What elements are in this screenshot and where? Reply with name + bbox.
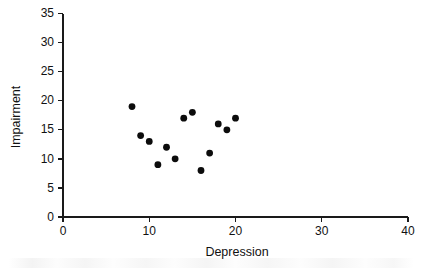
data-point bbox=[129, 103, 136, 110]
scatter-plot-svg: 05101520253035 010203040 Depression Impa… bbox=[0, 0, 422, 270]
x-tick-label: 40 bbox=[401, 224, 415, 238]
x-axis: 010203040 bbox=[60, 217, 415, 238]
data-point bbox=[154, 161, 161, 168]
x-tick-label: 20 bbox=[229, 224, 243, 238]
y-tick-label: 35 bbox=[41, 6, 55, 20]
y-axis: 05101520253035 bbox=[41, 6, 63, 224]
data-point bbox=[215, 121, 222, 128]
data-point bbox=[189, 109, 196, 116]
data-point bbox=[223, 126, 230, 133]
data-point bbox=[232, 115, 239, 122]
data-point bbox=[198, 167, 205, 174]
x-tick-label: 10 bbox=[143, 224, 157, 238]
data-points-layer bbox=[129, 103, 239, 174]
x-tick-label: 30 bbox=[315, 224, 329, 238]
data-point bbox=[163, 144, 170, 151]
data-point bbox=[180, 115, 187, 122]
x-tick-label: 0 bbox=[60, 224, 67, 238]
x-axis-title: Depression bbox=[205, 245, 268, 259]
y-tick-label: 0 bbox=[47, 210, 54, 224]
y-tick-label: 25 bbox=[41, 64, 55, 78]
data-point bbox=[206, 150, 213, 157]
y-tick-label: 15 bbox=[41, 122, 55, 136]
y-tick-label: 10 bbox=[41, 152, 55, 166]
y-tick-label: 5 bbox=[47, 181, 54, 195]
y-tick-label: 20 bbox=[41, 93, 55, 107]
data-point bbox=[172, 155, 179, 162]
data-point bbox=[146, 138, 153, 145]
data-point bbox=[137, 132, 144, 139]
scatter-plot-figure: 05101520253035 010203040 Depression Impa… bbox=[0, 0, 422, 270]
y-axis-title: Impairment bbox=[9, 85, 23, 148]
y-tick-label: 30 bbox=[41, 35, 55, 49]
